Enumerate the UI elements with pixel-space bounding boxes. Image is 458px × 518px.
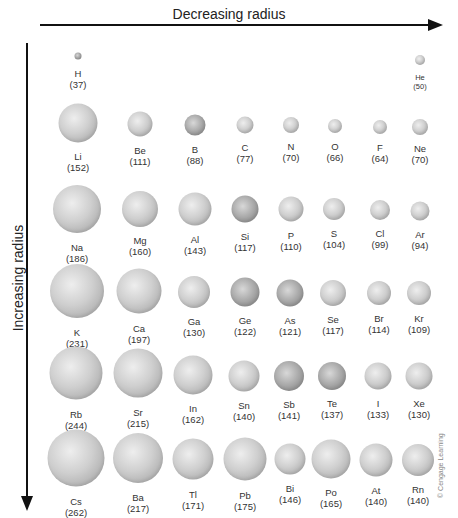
element-symbol: Al: [184, 234, 206, 245]
atom-sphere-te: [318, 362, 346, 390]
atom-sphere-o: [328, 119, 342, 133]
atom-sphere-n: [283, 117, 299, 133]
atom-label-rn: Rn(140): [407, 484, 429, 506]
atom-label-p: P(110): [280, 230, 301, 252]
atomic-radius-pm: (262): [65, 507, 87, 518]
element-symbol: At: [365, 485, 387, 496]
atomic-radius-pm: (140): [233, 411, 255, 422]
atom-label-in: In(162): [182, 403, 204, 425]
atomic-radius-pm: (140): [365, 496, 387, 507]
element-symbol: P: [280, 230, 301, 241]
element-symbol: Kr: [408, 313, 430, 324]
atomic-radius-pm: (141): [278, 410, 300, 421]
atom-label-ge: Ge(122): [234, 315, 256, 337]
atom-sphere-k: [50, 264, 104, 318]
atom-sphere-rn: [402, 444, 434, 476]
atomic-radius-pm: (143): [184, 245, 206, 256]
atomic-radius-pm: (146): [279, 494, 301, 505]
atomic-radius-pm: (171): [182, 500, 204, 511]
atom-sphere-rb: [50, 347, 103, 400]
element-symbol: Be: [130, 145, 151, 156]
atom-sphere-pb: [224, 438, 267, 481]
atomic-radius-pm: (37): [70, 79, 87, 90]
atom-label-be: Be(111): [130, 145, 151, 167]
element-symbol: Sb: [278, 399, 300, 410]
element-symbol: Tl: [182, 489, 204, 500]
atom-sphere-al: [179, 193, 212, 226]
element-symbol: O: [327, 141, 344, 152]
atom-sphere-c: [237, 117, 254, 134]
atomic-radius-pm: (197): [128, 334, 150, 345]
atomic-radius-pm: (137): [321, 409, 343, 420]
atomic-radius-pm: (50): [413, 82, 426, 91]
element-symbol: Ge: [234, 315, 256, 326]
atom-label-ne: Ne(70): [412, 143, 429, 165]
atom-sphere-as: [277, 280, 304, 307]
atom-sphere-na: [53, 185, 101, 233]
element-symbol: Po: [320, 487, 342, 498]
atom-sphere-h: [75, 53, 82, 60]
element-symbol: Rn: [407, 484, 429, 495]
atom-label-xe: Xe(130): [408, 398, 430, 420]
atom-sphere-i: [365, 363, 392, 390]
atom-sphere-bi: [275, 444, 306, 475]
element-symbol: Rb: [65, 409, 87, 420]
atom-sphere-cl: [370, 200, 390, 220]
atom-sphere-li: [59, 104, 98, 143]
atom-label-te: Te(137): [321, 398, 343, 420]
atom-sphere-f: [373, 120, 387, 134]
atomic-radius-pm: (162): [182, 414, 204, 425]
atomic-radius-pm: (122): [234, 326, 256, 337]
element-symbol: I: [367, 398, 389, 409]
atom-label-f: F(64): [372, 142, 389, 164]
atom-label-cl: Cl(99): [372, 228, 389, 250]
atomic-radius-pm: (160): [129, 246, 151, 257]
atomic-radius-pm: (70): [283, 152, 300, 163]
atomic-radius-pm: (109): [408, 324, 430, 335]
element-symbol: Si: [234, 231, 255, 242]
element-symbol: Sn: [233, 400, 255, 411]
decreasing-radius-arrow-line: [40, 24, 440, 26]
atom-sphere-b: [185, 115, 206, 136]
atomic-radius-pm: (66): [327, 152, 344, 163]
atom-sphere-sr: [114, 349, 163, 398]
atom-label-ga: Ga(130): [183, 316, 205, 338]
element-symbol: Ga: [183, 316, 205, 327]
atomic-radius-pm: (140): [407, 495, 429, 506]
arrow-down-icon: [21, 496, 33, 511]
atom-sphere-cs: [48, 430, 105, 487]
atom-label-tl: Tl(171): [182, 489, 204, 511]
element-symbol: K: [66, 327, 88, 338]
atom-label-ar: Ar(94): [412, 229, 429, 251]
atomic-radius-pm: (121): [279, 326, 301, 337]
atom-label-al: Al(143): [184, 234, 206, 256]
element-symbol: Ba: [127, 492, 149, 503]
atom-sphere-kr: [407, 281, 431, 305]
element-symbol: Ca: [128, 323, 150, 334]
atom-sphere-po: [312, 440, 351, 479]
atom-sphere-tl: [173, 439, 214, 480]
arrow-right-icon: [428, 19, 443, 31]
atom-label-at: At(140): [365, 485, 387, 507]
atomic-radius-pm: (130): [183, 327, 205, 338]
atom-label-pb: Pb(175): [234, 490, 256, 512]
atom-sphere-sb: [274, 361, 304, 391]
atom-label-i: I(133): [367, 398, 389, 420]
atom-sphere-si: [232, 196, 259, 223]
element-symbol: Br: [368, 313, 389, 324]
atom-sphere-ne: [412, 119, 428, 135]
atom-label-na: Na(186): [66, 242, 88, 264]
element-symbol: Mg: [129, 235, 151, 246]
left-axis-title: Increasing radius: [10, 208, 26, 348]
atomic-radius-pm: (175): [234, 501, 256, 512]
atomic-radius-pm: (64): [372, 153, 389, 164]
atom-sphere-ga: [178, 276, 210, 308]
element-symbol: H: [70, 68, 87, 79]
atom-label-he: He(50): [413, 73, 426, 91]
atom-label-se: Se(117): [322, 314, 343, 336]
atom-sphere-ba: [113, 433, 163, 483]
atom-label-ca: Ca(197): [128, 323, 150, 345]
atomic-radius-pm: (215): [127, 418, 149, 429]
atom-sphere-he: [415, 55, 425, 65]
element-symbol: Li: [67, 151, 89, 162]
